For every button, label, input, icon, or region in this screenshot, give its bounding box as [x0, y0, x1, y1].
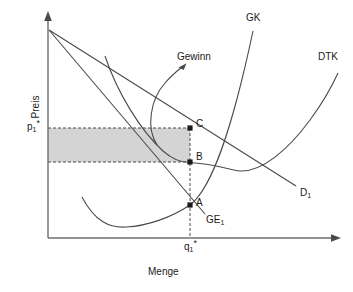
x-tick-star: *	[193, 238, 197, 248]
y-tick-letter: p	[27, 121, 33, 132]
x-tick-letter: q	[184, 241, 190, 252]
y-axis-arrowhead	[44, 11, 52, 21]
y-axis-title: Preis	[30, 96, 41, 119]
point-label-a: A	[196, 198, 203, 208]
curve-label-ge1-subscript: 1	[220, 219, 224, 226]
point-marker-b	[187, 159, 192, 164]
annotation-gewinn: Gewinn	[177, 52, 211, 62]
curve-label-dtk: DTK	[318, 52, 338, 62]
curve-label-ge1-letter: GE	[206, 214, 220, 225]
curve-label-d1: D1	[300, 188, 311, 198]
y-tick-star: *	[36, 118, 40, 128]
curve-label-ge1: GE1	[206, 215, 224, 225]
point-marker-a	[187, 202, 192, 207]
x-axis-arrowhead	[331, 234, 341, 242]
profit-rectangle	[48, 128, 190, 162]
point-marker-c	[187, 125, 192, 130]
x-tick-label-q1: q1*	[184, 242, 197, 252]
diagram-canvas	[0, 0, 353, 292]
demand-curve-d1	[49, 30, 296, 186]
point-label-b: B	[196, 152, 203, 162]
x-axis-title: Menge	[148, 267, 179, 277]
curve-label-gk: GK	[246, 13, 260, 23]
curve-label-d1-subscript: 1	[307, 192, 311, 199]
point-label-c: C	[196, 119, 203, 129]
y-tick-label-p1: p1*	[27, 122, 40, 132]
economics-diagram: Preis Menge p1* q1* GK DTK D1 GE1 C B A …	[0, 0, 353, 292]
